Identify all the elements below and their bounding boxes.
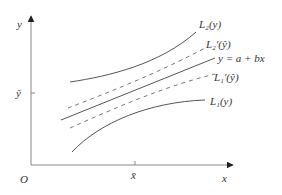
regression-line xyxy=(61,58,215,120)
label-L2: L₂(y) xyxy=(198,18,221,31)
origin-label: O xyxy=(20,173,28,185)
curve-L2-prime xyxy=(68,48,205,108)
label-L1-prime: L₁′(ŷ) xyxy=(213,71,239,84)
curve-L2 xyxy=(70,32,196,82)
label-L1: L₁(y) xyxy=(209,95,232,108)
y-axis-label: y xyxy=(16,18,22,30)
label-L2-prime: L₂′(ŷ) xyxy=(205,38,231,51)
y-mean-label: ȳ xyxy=(15,87,22,99)
regression-band-diagram: y x O x̄ ȳ L₂(y) L₂′(ŷ) y = a + bx L₁′(ŷ… xyxy=(0,0,282,195)
x-mean-label: x̄ xyxy=(130,169,136,181)
label-regression: y = a + bx xyxy=(217,52,265,64)
x-axis-label: x xyxy=(221,172,227,184)
